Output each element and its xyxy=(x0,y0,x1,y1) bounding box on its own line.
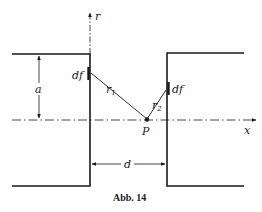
point-p xyxy=(145,117,149,121)
a-label: a xyxy=(35,83,42,96)
r2-label: r2 xyxy=(152,99,162,113)
df-right-label: df xyxy=(172,83,185,96)
r1-line xyxy=(91,73,147,119)
d-label: d xyxy=(124,158,131,171)
diagram-figure: r x a d df df r1 r2 P Abb. 14 xyxy=(0,0,262,212)
point-p-label: P xyxy=(141,125,150,138)
x-axis-label: x xyxy=(244,124,251,137)
r-axis-label: r xyxy=(95,10,101,23)
figure-caption: Abb. 14 xyxy=(113,192,146,203)
df-left-label: df xyxy=(72,69,85,82)
right-plate xyxy=(167,53,244,186)
r1-label: r1 xyxy=(106,83,116,97)
